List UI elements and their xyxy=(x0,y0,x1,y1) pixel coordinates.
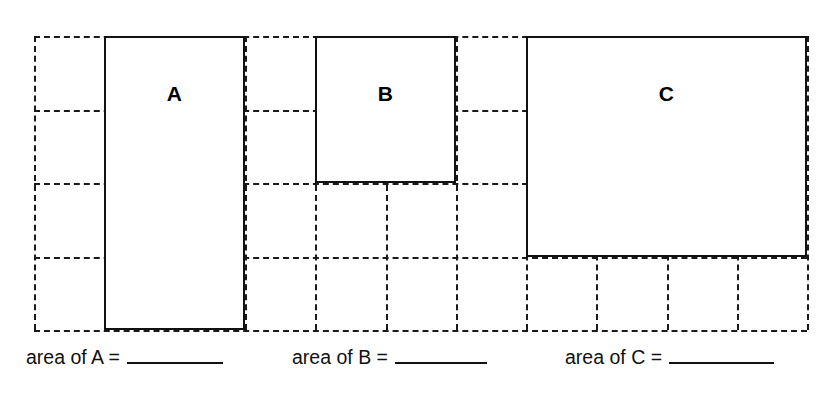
rectangle-b: B xyxy=(315,36,456,183)
answer-prompt-a: area of A = xyxy=(26,346,223,369)
rectangle-a: A xyxy=(104,36,245,330)
answer-label-b: area of B = xyxy=(292,346,388,369)
grid-line-horizontal-4 xyxy=(34,330,807,332)
grid-line-vertical-3 xyxy=(245,36,247,330)
worksheet-page: ABC area of A =area of B =area of C = xyxy=(0,0,837,396)
answer-row: area of A =area of B =area of C = xyxy=(0,346,837,396)
rectangle-c: C xyxy=(526,36,807,257)
grid-line-vertical-11 xyxy=(807,36,809,330)
grid-line-vertical-6 xyxy=(456,36,458,330)
rectangle-label-b: B xyxy=(317,82,454,106)
answer-blank-c[interactable] xyxy=(669,348,774,364)
rectangle-label-a: A xyxy=(106,82,243,106)
answer-blank-a[interactable] xyxy=(127,348,223,364)
answer-prompt-b: area of B = xyxy=(292,346,487,369)
answer-label-a: area of A = xyxy=(26,346,120,369)
answer-blank-b[interactable] xyxy=(395,348,487,364)
grid-line-vertical-0 xyxy=(34,36,36,330)
rectangle-label-c: C xyxy=(528,82,805,106)
answer-prompt-c: area of C = xyxy=(565,346,774,369)
answer-label-c: area of C = xyxy=(565,346,662,369)
